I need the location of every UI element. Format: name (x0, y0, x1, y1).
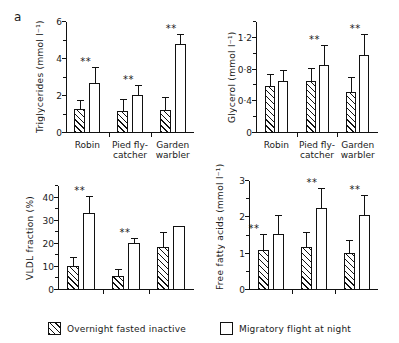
legend-item-fasted: Overnight fasted inactive (48, 322, 186, 335)
error-cap-glycerol-1-0 (308, 68, 315, 69)
y-tick-vldl_fraction (54, 197, 58, 198)
significance-marker-triglycerides-1-1: ** (123, 75, 134, 85)
bar-free_fatty_acids-2-0 (344, 253, 355, 290)
bar-free_fatty_acids-0-0 (258, 250, 269, 290)
y-tick-free_fatty_acids (245, 216, 249, 217)
y-tick-label-triglycerides: 4 (56, 55, 62, 64)
significance-marker-free_fatty_acids-1-1: ** (307, 178, 318, 188)
y-tick-vldl_fraction (54, 243, 58, 244)
error-cap-triglycerides-2-1 (177, 34, 184, 35)
error-bar-free_fatty_acids-0-1 (278, 216, 279, 234)
significance-marker-triglycerides-0-1: ** (80, 57, 91, 67)
y-minor-tick-vldl_fraction (55, 254, 58, 255)
bar-free_fatty_acids-0-1 (273, 234, 284, 290)
y-minor-tick-vldl_fraction (55, 231, 58, 232)
error-cap-glycerol-1-1 (321, 45, 328, 46)
x-tick-vldl_fraction (149, 290, 150, 294)
x-tick-vldl_fraction (103, 290, 104, 294)
error-bar-vldl_fraction-0-1 (89, 197, 90, 213)
bar-free_fatty_acids-1-0 (301, 247, 312, 290)
y-minor-tick-glycerol (253, 84, 256, 85)
bar-triglycerides-1-0 (117, 111, 128, 133)
x-tick-label-glycerol-0: Robin (264, 140, 289, 150)
x-tick-label-glycerol-1: Pied fly- catcher (299, 140, 335, 160)
error-cap-vldl_fraction-1-1 (131, 238, 138, 239)
error-cap-glycerol-0-0 (267, 74, 274, 75)
y-tick-label-triglycerides: 0 (56, 129, 62, 138)
figure-canvas: a Triglycerides (mmol l⁻¹)0246******Robi… (0, 0, 399, 343)
bar-free_fatty_acids-2-1 (359, 215, 370, 290)
error-cap-vldl_fraction-0-0 (70, 257, 77, 258)
y-tick-label-vldl_fraction: 0 (48, 286, 54, 295)
significance-marker-vldl_fraction-0-1: ** (74, 186, 85, 196)
x-tick-glycerol (337, 133, 338, 137)
x-tick-label-glycerol-2: Garden warbler (341, 140, 375, 160)
y-axis-label-triglycerides: Triglycerides (mmol l⁻¹) (36, 22, 45, 133)
error-bar-glycerol-0-1 (283, 71, 284, 81)
error-bar-triglycerides-0-0 (80, 101, 81, 109)
y-minor-tick-glycerol (253, 53, 256, 54)
y-tick-label-vldl_fraction: 20 (43, 239, 54, 248)
bar-triglycerides-2-0 (160, 110, 171, 133)
y-tick-label-free_fatty_acids: 0 (239, 286, 245, 295)
x-tick-triglycerides (109, 133, 110, 137)
error-cap-triglycerides-1-0 (120, 99, 127, 100)
y-minor-tick-triglycerides (63, 40, 66, 41)
error-cap-triglycerides-0-0 (77, 100, 84, 101)
y-tick-glycerol (252, 132, 256, 133)
error-cap-triglycerides-0-1 (92, 67, 99, 68)
error-cap-triglycerides-1-1 (135, 85, 142, 86)
y-tick-glycerol (252, 100, 256, 101)
y-tick-label-glycerol: 0·8 (238, 65, 252, 74)
error-cap-free_fatty_acids-0-1 (275, 215, 282, 216)
y-tick-label-free_fatty_acids: 3 (239, 177, 245, 186)
error-bar-triglycerides-1-0 (123, 100, 124, 111)
panel-letter: a (14, 10, 22, 24)
figure-legend: Overnight fasted inactiveMigratory fligh… (0, 322, 399, 335)
error-bar-glycerol-1-0 (311, 69, 312, 82)
y-tick-label-vldl_fraction: 30 (43, 216, 54, 225)
bar-vldl_fraction-2-0 (157, 247, 169, 290)
error-bar-vldl_fraction-1-0 (118, 270, 119, 276)
error-bar-free_fatty_acids-1-0 (306, 233, 307, 247)
error-cap-glycerol-2-0 (348, 77, 355, 78)
legend-label-flight: Migratory flight at night (239, 324, 351, 334)
bar-triglycerides-1-1 (132, 95, 143, 133)
y-axis-line-vldl_fraction (58, 186, 59, 290)
bar-triglycerides-2-1 (175, 44, 186, 133)
error-bar-vldl_fraction-2-0 (163, 233, 164, 247)
error-bar-free_fatty_acids-2-0 (349, 241, 350, 253)
error-cap-triglycerides-2-0 (162, 97, 169, 98)
plot-area-triglycerides: 0246****** (66, 22, 194, 133)
legend-swatch-flight (220, 322, 233, 335)
bar-glycerol-0-1 (278, 81, 288, 133)
significance-marker-vldl_fraction-1-1: ** (120, 228, 131, 238)
y-minor-tick-vldl_fraction (55, 208, 58, 209)
y-axis-label-free_fatty_acids: Free fatty acids (mmol l⁻¹) (216, 181, 225, 290)
y-axis-line-glycerol (256, 22, 257, 133)
error-bar-glycerol-0-0 (270, 75, 271, 86)
y-minor-tick-triglycerides (63, 114, 66, 115)
error-cap-free_fatty_acids-2-0 (346, 240, 353, 241)
bar-vldl_fraction-0-1 (83, 213, 95, 290)
error-bar-glycerol-2-0 (351, 78, 352, 92)
y-tick-label-glycerol: 1·2 (238, 33, 252, 42)
bar-glycerol-1-1 (319, 65, 329, 133)
x-tick-label-triglycerides-0: Robin (75, 140, 100, 150)
error-bar-free_fatty_acids-0-0 (263, 235, 264, 250)
legend-label-fasted: Overnight fasted inactive (67, 324, 186, 334)
y-axis-label-glycerol: Glycerol (mmol l⁻¹) (228, 22, 237, 133)
error-cap-free_fatty_acids-1-1 (318, 188, 325, 189)
x-tick-free_fatty_acids (292, 290, 293, 294)
y-axis-label-vldl_fraction: VLDL fraction (%) (26, 186, 35, 290)
y-tick-label-glycerol: 0 (246, 129, 252, 138)
y-tick-free_fatty_acids (245, 289, 249, 290)
error-bar-triglycerides-0-1 (95, 68, 96, 82)
plot-area-vldl_fraction: 010203040**** (58, 186, 194, 290)
x-tick-free_fatty_acids (335, 290, 336, 294)
y-minor-tick-vldl_fraction (55, 277, 58, 278)
y-tick-label-free_fatty_acids: 1 (239, 249, 245, 258)
y-tick-vldl_fraction (54, 289, 58, 290)
x-tick-label-triglycerides-1: Pied fly- catcher (112, 140, 148, 160)
bar-glycerol-2-0 (346, 92, 356, 133)
